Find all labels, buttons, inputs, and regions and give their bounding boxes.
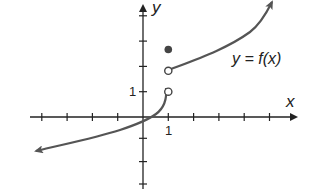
y-axis-label: y	[152, 0, 161, 18]
function-label: y = f(x)	[232, 50, 281, 68]
x-axis-label: x	[286, 92, 295, 112]
open-point-1-1	[165, 88, 172, 95]
filled-point-1-3	[165, 46, 173, 54]
function-graph	[0, 0, 310, 189]
x-tick-label-1: 1	[165, 123, 172, 138]
left-branch-curve	[36, 88, 166, 151]
open-point-1-2	[165, 67, 172, 74]
y-tick-label-1: 1	[129, 84, 136, 99]
